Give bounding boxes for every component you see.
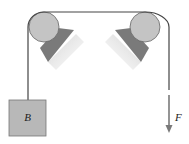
right-pulley <box>130 12 160 42</box>
block-b: B <box>9 100 46 136</box>
force-arrow: F <box>166 95 183 133</box>
left-pulley <box>29 12 59 42</box>
arrow-head-icon <box>166 125 173 133</box>
force-label: F <box>174 111 182 123</box>
block-label: B <box>24 111 31 123</box>
pulley-diagram: B F <box>0 0 189 144</box>
